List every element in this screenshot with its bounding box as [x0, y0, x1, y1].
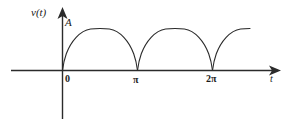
x-tick-label-pi: π [133, 75, 138, 85]
amplitude-label: A [65, 17, 72, 28]
waveform-arch-3-partial [213, 29, 251, 71]
waveform-arch-1 [63, 29, 138, 71]
rectified-sine-figure: v(t) A t 0 π 2π [0, 0, 288, 124]
waveform-arch-2 [138, 29, 213, 71]
y-axis-label: v(t) [31, 7, 46, 18]
plot-canvas [0, 0, 288, 124]
x-tick-label-origin: 0 [65, 74, 70, 84]
x-tick-label-two-pi: 2π [206, 74, 216, 84]
x-axis-label: t [270, 74, 273, 84]
waveform-curve [63, 29, 251, 71]
